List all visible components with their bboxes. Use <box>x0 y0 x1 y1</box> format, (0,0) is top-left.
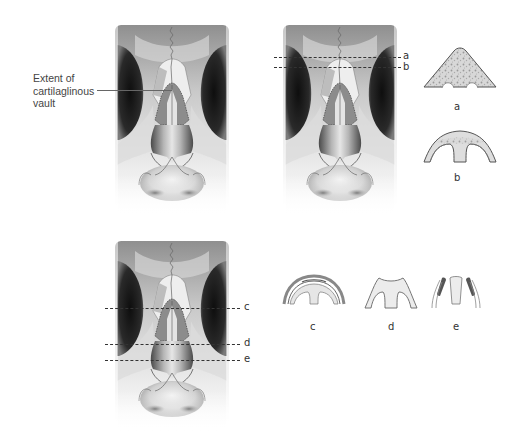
callout-line-2: cartilaglinous <box>33 85 94 98</box>
section-line-d <box>105 344 240 345</box>
section-line-a <box>274 57 401 58</box>
cross-section-a <box>420 45 500 90</box>
callout-line-3: vault <box>33 97 94 110</box>
cross-section-e <box>430 274 482 310</box>
cross-section-c <box>282 274 346 306</box>
cross-section-b <box>422 128 498 164</box>
cross-section-label-c: c <box>310 322 316 332</box>
nose-illustration-top-left <box>115 25 229 215</box>
section-label-b: b <box>403 62 409 72</box>
cross-section-label-a: a <box>454 102 460 112</box>
callout-leader-line <box>97 90 172 91</box>
section-label-a: a <box>403 51 409 61</box>
cross-section-label-d: d <box>388 322 394 332</box>
section-line-b <box>274 67 401 68</box>
callout-line-1: Extent of <box>33 72 94 85</box>
section-line-e <box>105 360 240 361</box>
nose-illustration-bottom-left <box>115 241 229 431</box>
cross-section-d <box>363 274 419 310</box>
nose-illustration-top-right <box>283 25 397 215</box>
section-label-c: c <box>244 302 250 312</box>
section-label-d: d <box>244 338 250 348</box>
cross-section-label-b: b <box>454 173 460 183</box>
section-line-c <box>105 308 240 309</box>
section-label-e: e <box>244 354 250 364</box>
callout-label-cartilaginous-vault: Extent of cartilaglinous vault <box>33 72 94 110</box>
cross-section-label-e: e <box>453 322 459 332</box>
